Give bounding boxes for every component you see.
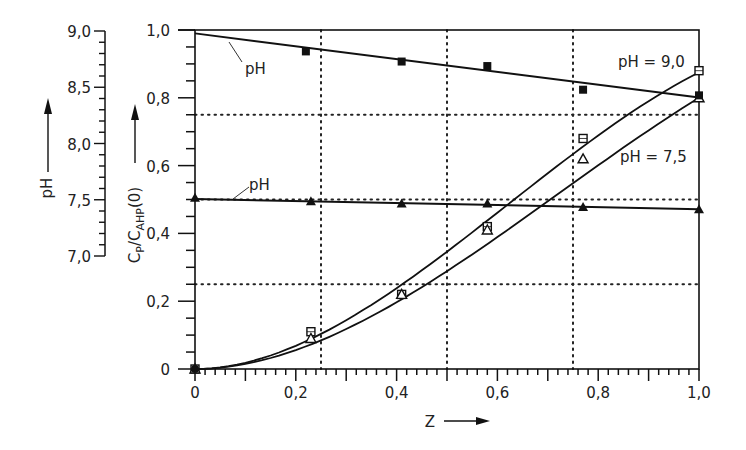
origin-dot	[191, 365, 199, 373]
annotation-ph-7-5: pH = 7,5	[620, 148, 687, 166]
y-axis-arrow-head-icon	[131, 104, 139, 120]
y-tick-label: 0,2	[146, 293, 170, 311]
annot-leader-bottom	[233, 187, 249, 199]
x-tick-label: 0	[190, 384, 200, 402]
marker-open-triangle-icon	[578, 154, 588, 163]
y-axis-title: CP/CAHP(0)	[126, 187, 147, 263]
chart-canvas: 00,20,40,60,81,000,20,40,60,81,0Z7,07,58…	[0, 0, 746, 450]
ph-tick-label: 9,0	[67, 23, 91, 41]
x-axis-title: Z	[425, 413, 435, 431]
marker-filled-triangle-icon	[482, 199, 492, 208]
y-tick-label: 0	[160, 361, 170, 379]
marker-filled-triangle-icon	[190, 193, 200, 202]
y-tick-label: 1,0	[146, 22, 170, 40]
ph-tick-label: 8,0	[67, 136, 91, 154]
marker-filled-square-icon	[483, 62, 491, 70]
annotation-ph-9-0: pH = 9,0	[618, 53, 685, 71]
x-tick-label: 1,0	[687, 384, 711, 402]
x-tick-label: 0,6	[485, 384, 509, 402]
annotation-ph-bottom: pH	[249, 176, 270, 194]
marker-filled-square-icon	[302, 47, 310, 55]
ph-axis-arrow-head-icon	[44, 98, 52, 114]
y-tick-label: 0,8	[146, 90, 170, 108]
x-tick-label: 0,4	[385, 384, 409, 402]
x-axis-arrow-head-icon	[476, 417, 490, 425]
marker-filled-square-icon	[695, 91, 703, 99]
annotation-ph-top: pH	[245, 60, 266, 78]
y-tick-label: 0,4	[146, 225, 170, 243]
y-tick-label: 0,6	[146, 158, 170, 176]
x-tick-label: 0,2	[284, 384, 308, 402]
marker-filled-square-icon	[398, 58, 406, 66]
ph-tick-label: 8,5	[67, 79, 91, 97]
annot-leader-top	[229, 42, 242, 62]
marker-filled-square-icon	[579, 86, 587, 94]
ph-tick-label: 7,0	[67, 248, 91, 266]
ph-tick-label: 7,5	[67, 192, 91, 210]
ph-axis-title: pH	[38, 178, 56, 199]
x-tick-label: 0,8	[586, 384, 610, 402]
